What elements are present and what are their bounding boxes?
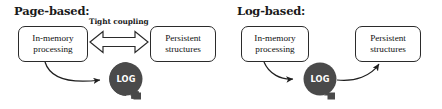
node-label: Persistent structures	[165, 33, 201, 56]
edge-log-to-persistent	[337, 64, 379, 80]
node-in-memory-processing-log-based[interactable]: In-memory processing	[241, 26, 309, 62]
log-label-log-based: LOG	[310, 74, 329, 84]
edge-in-memory-to-log	[45, 62, 100, 81]
node-persistent-structures-log-based[interactable]: Persistent structures	[355, 26, 421, 62]
node-label: In-memory processing	[254, 33, 295, 56]
node-in-memory-processing-page-based[interactable]: In-memory processing	[18, 26, 88, 62]
node-label: Persistent structures	[370, 33, 406, 56]
log-node-log-based: LOG	[304, 63, 337, 100]
node-label: In-memory processing	[32, 33, 73, 56]
edge-label-tight-coupling: Tight coupling	[89, 17, 149, 26]
log-node-page-based: LOG	[110, 63, 143, 100]
panel-page-based: Page-based: LOG	[0, 0, 221, 109]
log-label-page-based: LOG	[116, 74, 135, 84]
node-persistent-structures-page-based[interactable]: Persistent structures	[150, 26, 216, 62]
edge-in-memory-to-log	[264, 62, 293, 79]
diagram-root: Page-based: LOG	[0, 0, 442, 109]
tight-coupling-double-arrow	[90, 32, 148, 53]
panel-log-based: Log-based: LOG In-memory	[221, 0, 442, 109]
